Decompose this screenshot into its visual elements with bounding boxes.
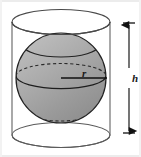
figure-container: r h — [0, 0, 141, 157]
cylinder-bottom-rim-front — [12, 135, 110, 147]
sphere-shape — [16, 1, 107, 145]
height-label: h — [132, 73, 138, 84]
radius-label: r — [82, 68, 86, 79]
sphere-in-cylinder-diagram — [0, 0, 141, 157]
